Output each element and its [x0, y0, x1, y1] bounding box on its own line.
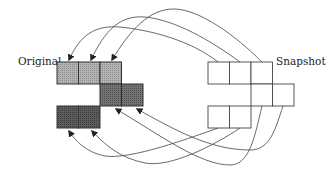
snapshot-diagram — [0, 0, 334, 176]
original-cell — [57, 62, 79, 84]
original-cell — [57, 106, 79, 128]
original-cell — [79, 62, 101, 84]
arrow — [69, 27, 218, 62]
snapshot-cell — [208, 106, 230, 128]
original-cell — [100, 62, 122, 84]
original-cell — [100, 84, 122, 106]
original-cell — [122, 84, 144, 106]
snapshot-cell — [230, 106, 252, 128]
snapshot-cell — [273, 84, 295, 106]
original-row-3 — [57, 106, 100, 128]
top-arrows — [69, 9, 262, 62]
original-row-2 — [100, 84, 143, 106]
arrow — [91, 17, 240, 62]
snapshot-cell — [251, 84, 273, 106]
original-row-1 — [57, 62, 122, 84]
snapshot-grid — [208, 62, 294, 128]
original-cell — [79, 106, 101, 128]
original-grid — [57, 62, 143, 128]
snapshot-cell — [251, 62, 273, 84]
snapshot-cell — [230, 62, 252, 84]
snapshot-cell — [208, 62, 230, 84]
